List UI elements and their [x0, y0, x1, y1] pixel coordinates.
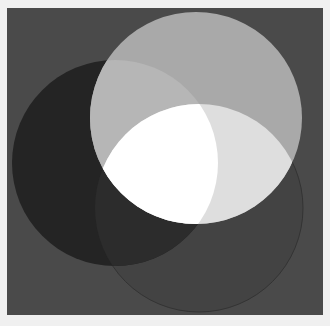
- image-frame: [0, 0, 330, 326]
- venn-circles-graphic: [0, 0, 330, 326]
